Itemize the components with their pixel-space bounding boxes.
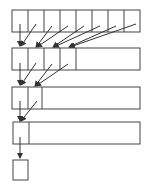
row-2-array [12,48,140,70]
reduction-diagram [0,0,148,190]
row-3-array [12,87,140,109]
final-result-box [13,160,28,180]
row-1-array [12,10,140,32]
arrows-row1-to-row2 [20,24,136,47]
row-4-array [13,122,140,144]
